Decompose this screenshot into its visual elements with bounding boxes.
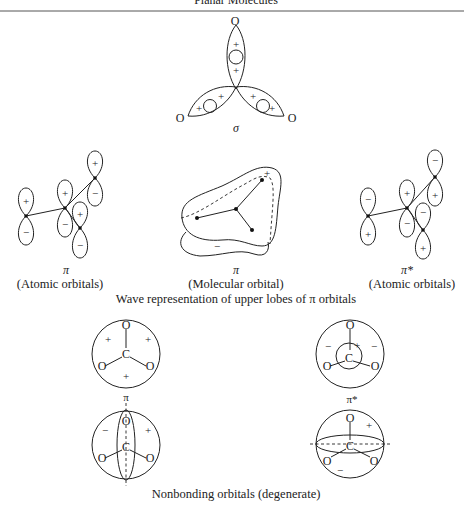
atom-oxygen: O (323, 454, 332, 468)
atom-dot (24, 214, 28, 218)
bond (353, 361, 370, 366)
sign-plus: + (23, 195, 29, 207)
mo-dashed-boundary (181, 176, 273, 244)
atom-oxygen-top: O (231, 14, 240, 28)
caption-atomic-orbitals: (Atomic orbitals) (369, 277, 455, 291)
sign-minus: − (371, 340, 377, 352)
atom-carbon: C (346, 439, 354, 453)
bond (26, 208, 65, 216)
sign-plus: + (92, 157, 98, 169)
atom-oxygen: O (346, 411, 355, 425)
sign-plus: + (420, 242, 426, 254)
pi-star-label: π* (401, 263, 413, 277)
atom-oxygen: O (98, 451, 107, 465)
atom-dot (250, 228, 254, 232)
atom-dot (78, 226, 82, 230)
bond (197, 209, 236, 218)
atom-carbon: C (122, 347, 130, 361)
atom-dot (63, 206, 67, 210)
sigma-node-circle-right (257, 100, 270, 113)
sign-plus: + (145, 333, 151, 345)
sign-minus: − (62, 218, 68, 230)
atom-dot (366, 214, 370, 218)
nonbonding-caption: Nonbonding orbitals (degenerate) (152, 487, 321, 501)
bond (368, 208, 407, 216)
atom-oxygen: O (98, 359, 107, 373)
atom-oxygen: O (346, 318, 355, 332)
bond (105, 357, 122, 366)
page-header: Planar Molecules (0, 0, 464, 11)
running-title: Planar Molecules (194, 0, 278, 7)
atom-carbon: C (345, 351, 353, 365)
atom-oxygen-left: O (176, 111, 185, 125)
sign-minus: − (325, 340, 331, 352)
sign-minus: − (337, 464, 343, 476)
atom-oxygen-right: O (288, 111, 297, 125)
sign-minus: − (77, 239, 83, 251)
atom-dot (195, 216, 199, 220)
atom-oxygen: O (122, 318, 131, 332)
sign-minus: − (214, 240, 220, 252)
atom-dot (421, 228, 425, 232)
sign-minus: − (404, 217, 410, 229)
sigma-node-circle-left (204, 100, 217, 113)
sigma-node-circle-top (229, 50, 243, 64)
atom-dot (93, 176, 97, 180)
pi-atomic-orbitals: + − + − + − + − π (Atomic orbitals) (17, 151, 103, 291)
bond (236, 209, 252, 230)
caption-atomic-orbitals: (Atomic orbitals) (17, 277, 103, 291)
bond (130, 357, 146, 366)
sign-minus: − (420, 206, 426, 218)
caption-molecular-orbital: (Molecular orbital) (188, 277, 283, 291)
sign-plus: + (145, 424, 151, 436)
atom-oxygen: O (323, 359, 332, 373)
atom-dot (433, 175, 437, 179)
bond (105, 450, 122, 458)
sign-plus: + (250, 90, 256, 102)
pi-molecular-orbital: + − π (Molecular orbital) (181, 167, 284, 291)
atom-oxygen: O (146, 359, 155, 373)
sign-plus: + (269, 102, 275, 114)
sign-plus: + (233, 38, 239, 50)
sign-plus: + (365, 228, 371, 240)
sign-plus: + (404, 187, 410, 199)
sign-plus: + (354, 339, 360, 351)
sign-plus: + (432, 189, 438, 201)
sigma-label: σ (233, 121, 240, 135)
atom-oxygen: O (370, 454, 379, 468)
pi-label: π (123, 391, 129, 403)
sign-plus: + (218, 90, 224, 102)
sign-plus: + (264, 167, 270, 179)
sigma-orbital-diagram: + + + + + + O O O σ (176, 14, 297, 135)
pi-star-atomic-orbitals: − + + − − + − + π* (Atomic orbitals) (360, 150, 455, 291)
bond (130, 450, 146, 458)
sign-minus: − (23, 226, 29, 238)
nonbonding-pi-star: O C O O − − + π* O C O O + − (310, 318, 390, 478)
wave-representation-caption: Wave representation of upper lobes of π … (116, 292, 356, 306)
mo-upper-outline (182, 167, 281, 246)
sigma-lobe-top (227, 25, 245, 89)
sign-minus: − (432, 154, 438, 166)
orbital-figure: Planar Molecules + + + + + + O O O σ + − (0, 0, 464, 507)
pi-label: π (233, 263, 240, 277)
sign-minus: − (365, 193, 371, 205)
sign-plus: + (123, 370, 129, 382)
sign-plus: + (233, 64, 239, 76)
sign-minus: − (92, 187, 98, 199)
atom-oxygen: O (371, 359, 380, 373)
sign-plus: + (366, 419, 372, 431)
atom-dot (405, 206, 409, 210)
sign-plus: + (105, 333, 111, 345)
sign-plus: + (196, 102, 202, 114)
atom-dot (234, 207, 238, 211)
atom-carbon: C (122, 440, 130, 454)
nonbonding-pi: O C O O + + + π O C O O − + (92, 318, 160, 486)
atom-oxygen: O (146, 451, 155, 465)
pi-label: π (63, 263, 70, 277)
sign-plus: + (77, 208, 83, 220)
pi-star-label: π* (346, 393, 357, 405)
sign-minus: − (102, 424, 108, 436)
bond (236, 180, 262, 209)
atom-oxygen: O (122, 414, 131, 428)
sign-plus: + (62, 187, 68, 199)
